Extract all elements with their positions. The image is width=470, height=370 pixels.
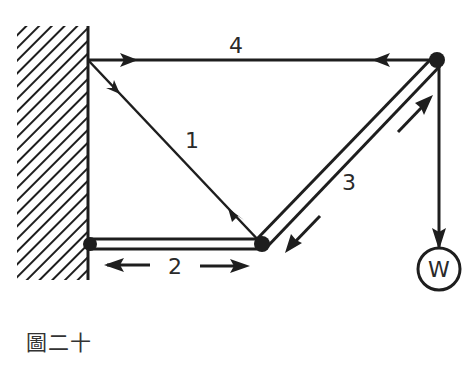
wall bbox=[17, 26, 88, 280]
weight-label: W bbox=[428, 257, 450, 282]
joint-top-right bbox=[429, 52, 445, 68]
member-1-label: 1 bbox=[185, 128, 199, 153]
load-line bbox=[432, 60, 446, 250]
member-4 bbox=[88, 53, 437, 67]
arrow-up-left-icon bbox=[228, 208, 244, 222]
weight: W bbox=[418, 248, 460, 290]
member-3-label: 3 bbox=[342, 170, 356, 195]
joint-bottom bbox=[254, 236, 270, 252]
member-1 bbox=[88, 60, 262, 244]
joint-wall-bottom bbox=[83, 237, 97, 251]
member-4-label: 4 bbox=[229, 33, 243, 58]
member-3 bbox=[256, 58, 440, 253]
force-diagram: W 4 1 2 3 bbox=[0, 0, 470, 370]
member-2-label: 2 bbox=[168, 254, 182, 279]
figure-caption: 圖二十 bbox=[26, 326, 92, 356]
